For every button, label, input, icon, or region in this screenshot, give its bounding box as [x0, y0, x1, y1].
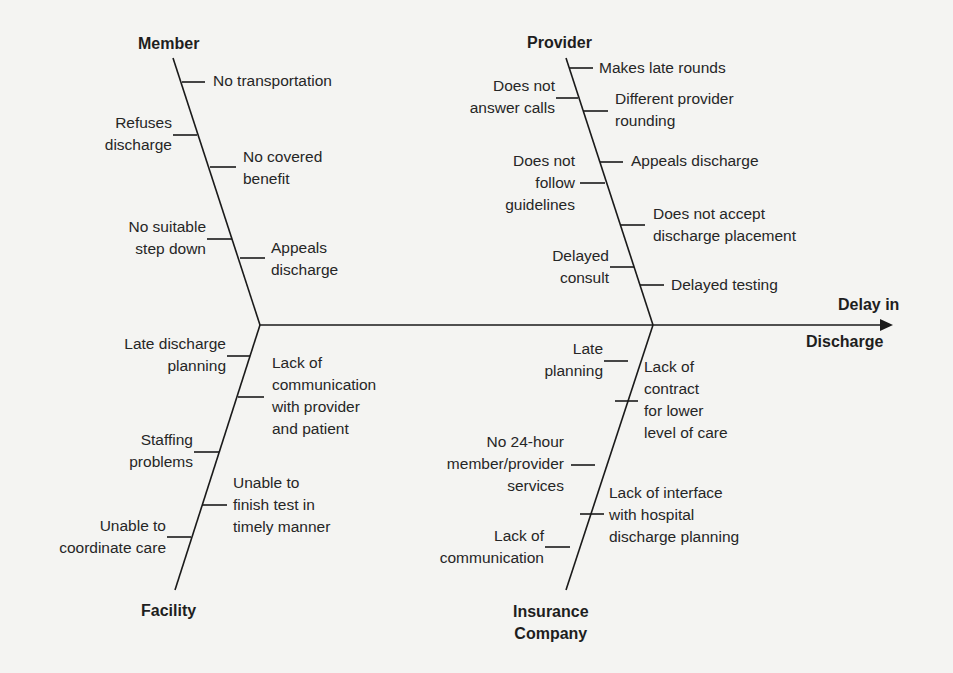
cause-label: Late discharge planning [90, 333, 226, 377]
cause-label: Lack of communication with provider and … [272, 352, 376, 440]
cause-label: Delayed testing [671, 274, 778, 296]
cause-label: Refuses discharge [90, 112, 172, 156]
cause-label: Different provider rounding [615, 88, 734, 132]
cause-label: Lack of contract for lower level of care [644, 356, 728, 444]
cause-label: Lack of communication [420, 525, 544, 569]
cause-label: No transportation [213, 70, 332, 92]
arrowhead-icon [880, 319, 893, 331]
cause-label: Appeals discharge [271, 237, 338, 281]
cause-label: Delayed consult [530, 245, 609, 289]
cause-label: No covered benefit [243, 146, 322, 190]
cause-label: No 24-hour member/provider services [420, 431, 564, 497]
category-provider: Provider [527, 32, 592, 54]
member-bone [173, 58, 260, 325]
cause-label: Does not answer calls [450, 75, 555, 119]
category-member: Member [138, 33, 199, 55]
cause-label: No suitable step down [100, 216, 206, 260]
category-insurance: Insurance Company [513, 601, 589, 645]
cause-label: Appeals discharge [631, 150, 759, 172]
category-facility: Facility [141, 600, 196, 622]
cause-label: Staffing problems [100, 429, 193, 473]
cause-label: Does not follow guidelines [480, 150, 575, 216]
cause-label: Does not accept discharge placement [653, 203, 796, 247]
cause-label: Unable to finish test in timely manner [233, 472, 330, 538]
effect-line1: Delay in [838, 294, 899, 316]
cause-label: Lack of interface with hospital discharg… [609, 482, 739, 548]
cause-label: Makes late rounds [599, 57, 726, 79]
cause-label: Unable to coordinate care [30, 515, 166, 559]
cause-label: Late planning [520, 338, 603, 382]
effect-line2: Discharge [806, 331, 883, 353]
